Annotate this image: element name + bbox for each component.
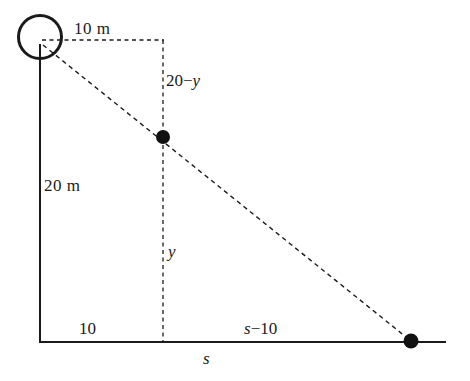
shadow-tip-point (404, 334, 419, 349)
label-upper-vertical-20-minus-y: 20−y (166, 72, 200, 89)
label-lower-vertical-y: y (168, 243, 176, 260)
label-pole-height-20m: 20 m (44, 177, 80, 194)
label-ground-total-s: s (203, 350, 210, 367)
label-top-horizontal-10m: 10 m (74, 20, 110, 37)
object-top-point (156, 130, 170, 144)
label-upper-vertical-prefix: 20− (166, 71, 193, 90)
label-ground-left-10: 10 (79, 320, 96, 337)
diagram-canvas: 10 m 20 m 20−y y 10 s−10 s (0, 0, 470, 381)
label-ground-right-variable: s (244, 319, 251, 338)
label-ground-right-rest: −10 (251, 319, 278, 338)
label-ground-right-s-minus-10: s−10 (244, 320, 277, 337)
light-ray (43, 45, 411, 341)
label-upper-vertical-variable: y (193, 71, 201, 90)
